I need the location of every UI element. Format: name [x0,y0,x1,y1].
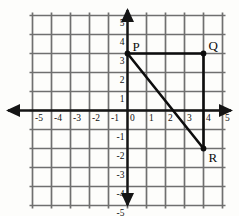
point-label-p: P [133,39,140,54]
x-tick-label: 0 [130,113,135,123]
x-tick-label: 1 [149,113,154,123]
y-tick-label: -2 [117,151,125,161]
y-tick-label: 2 [120,75,125,85]
x-tick-label: -3 [73,113,81,123]
y-tick-label: 3 [120,56,125,66]
x-tick-label: -1 [111,113,119,123]
y-tick-label: -4 [117,189,125,199]
point-p [125,51,131,57]
x-tick-label: -5 [35,113,43,123]
y-tick-label: 1 [120,94,125,104]
x-tick-label: 4 [206,113,211,123]
y-tick-label: -5 [117,208,125,216]
y-tick-label: -1 [117,132,125,142]
coordinate-plane-svg: -5-4-3-2-1012345 54321-1-2-3-4-5 PQR [0,0,239,216]
point-label-q: Q [209,38,219,53]
x-tick-label: 3 [187,113,192,123]
y-tick-label: -3 [117,170,125,180]
y-tick-label: 4 [120,37,125,47]
coordinate-plane-figure: -5-4-3-2-1012345 54321-1-2-3-4-5 PQR [0,0,239,216]
x-tick-label: 2 [168,113,173,123]
x-tick-label: -4 [54,113,62,123]
x-tick-label: 5 [225,113,230,123]
x-tick-label: -2 [92,113,100,123]
point-r [201,146,207,152]
y-tick-label: 5 [120,18,125,28]
point-q [201,51,207,57]
point-label-r: R [209,150,218,165]
